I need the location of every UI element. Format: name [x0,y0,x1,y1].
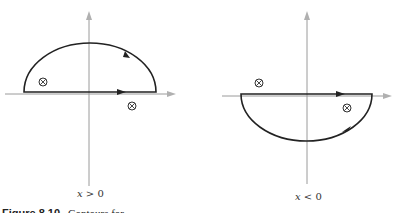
condition-label-right: x < 0 [295,191,322,202]
caption-text: Contours for [68,207,124,213]
condition-label-left: x > 0 [77,188,104,199]
caption-number: Figure 8.10 [2,207,60,213]
condition-relation: < 0 [301,191,322,202]
axis-arrow-right-icon [383,93,392,99]
figure-caption: Figure 8.10Contours for [2,207,124,213]
pole-marker-icon [128,102,136,110]
condition-relation: > 0 [83,188,104,199]
pole-marker-icon [39,78,47,86]
pole-marker-icon [343,104,351,112]
contour-figure: x > 0 x < 0 Figure 8.10Contours for [0,0,399,213]
axis-arrow-up-icon [86,11,92,20]
panel-left: x > 0 [5,11,176,199]
pole-marker-icon [255,79,263,87]
axis-arrow-right-icon [167,91,176,97]
panel-right: x < 0 [222,11,392,202]
axis-arrow-up-icon [304,11,310,20]
